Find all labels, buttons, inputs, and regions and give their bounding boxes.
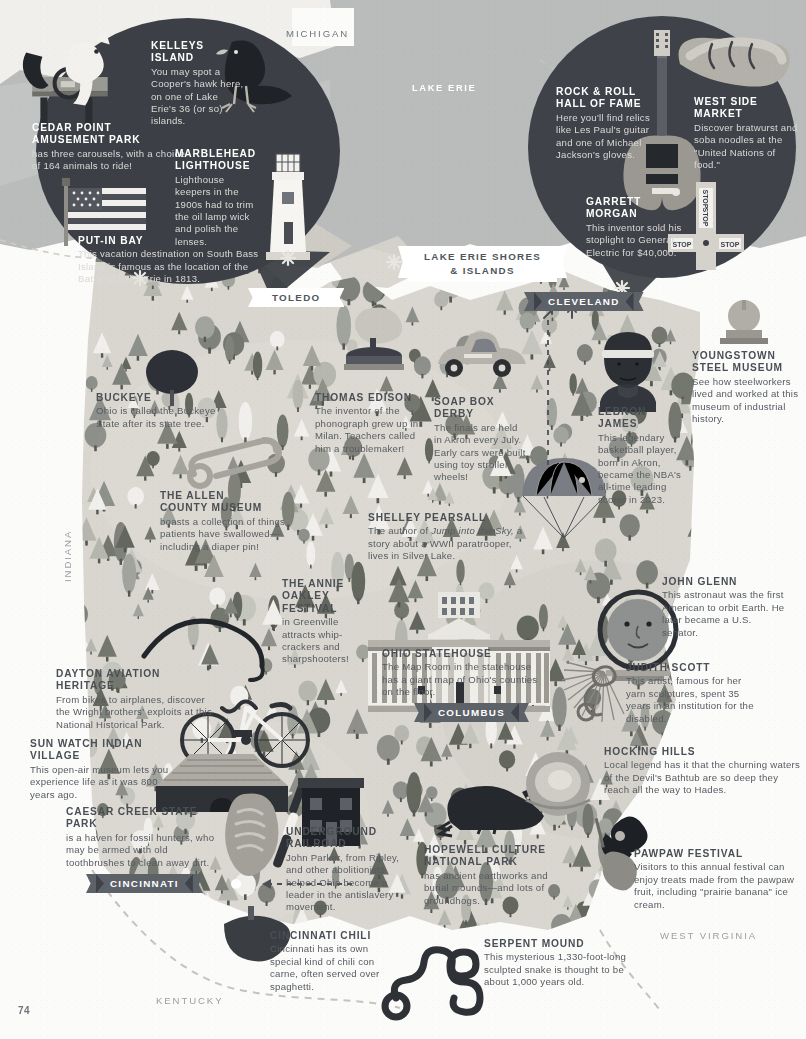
banner-columbus[interactable]: COLUMBUS — [424, 703, 519, 722]
entry-title: PUT-IN BAY — [78, 235, 274, 247]
entry-title: BUCKEYE — [96, 392, 234, 404]
entry-ohio-statehouse: OHIO STATEHOUSE The Map Room in the stat… — [382, 648, 550, 699]
entry-title: UNDERGROUND RAILROAD — [286, 826, 400, 851]
entry-body: Ohio is called the Buckeye State after i… — [96, 405, 234, 430]
entry-john-glenn: JOHN GLENN This astronaut was the first … — [662, 576, 786, 639]
entry-title: LeBRON JAMES — [598, 406, 684, 431]
entry-thomas-edison: THOMAS EDISON The inventor of the phonog… — [315, 392, 433, 455]
entry-body: John Parker, from Ripley, and other abol… — [286, 852, 400, 914]
ohio-illustrated-map: STOP STOP STOP STOP — [0, 0, 806, 1039]
entry-body: From bikes to airplanes, discover the Wr… — [56, 694, 220, 731]
entry-title: THOMAS EDISON — [315, 392, 433, 404]
entry-soap-box-derby: SOAP BOX DERBY The finals are held in Ak… — [434, 396, 526, 484]
entry-lebron-james: LeBRON JAMES This legendary basketball p… — [598, 406, 684, 506]
entry-title: ROCK & ROLL HALL OF FAME — [556, 86, 652, 111]
entry-kelleys-island: KELLEYS ISLAND You may spot a Cooper's h… — [151, 40, 246, 128]
entry-title: SHELLEY PEARSALL — [368, 512, 532, 524]
entry-west-side-market: WEST SIDE MARKET Discover bratwurst and … — [694, 96, 798, 171]
state-label-michigan: MICHIGAN — [286, 28, 349, 39]
entry-body: This legendary basketball player, born i… — [598, 432, 684, 506]
entry-hopewell-culture-national-park: HOPEWELL CULTURE NATIONAL PARK has ancie… — [424, 844, 550, 907]
entry-sun-watch-indian-village: SUN WATCH INDIAN VILLAGE This open-air m… — [30, 738, 180, 801]
banner-cleveland[interactable]: CLEVELAND — [534, 292, 634, 311]
banner-label: CLEVELAND — [548, 296, 620, 307]
entry-body: Cincinnati has its own special kind of c… — [270, 943, 386, 993]
entry-title: WEST SIDE MARKET — [694, 96, 798, 121]
entry-body: This astronaut was the first American to… — [662, 589, 786, 639]
entry-pawpaw-festival: PAWPAW FESTIVAL Visitors to this annual … — [634, 848, 798, 911]
state-label-indiana: INDIANA — [62, 530, 73, 582]
lake-erie-label: LAKE ERIE — [412, 82, 476, 93]
entry-body: is a haven for fossil hunters, who may b… — [66, 832, 226, 869]
entry-body: Here you'll find relics like Les Paul's … — [556, 112, 652, 162]
entry-title: CEDAR POINT AMUSEMENT PARK — [32, 122, 192, 147]
entry-body: See how steelworkers lived and worked at… — [692, 376, 800, 426]
entry-body: This open-air museum lets you experience… — [30, 764, 180, 801]
entry-title: YOUNGSTOWN STEEL MUSEUM — [692, 350, 800, 375]
entry-body: Visitors to this annual festival can enj… — [634, 861, 798, 911]
entry-caesar-creek-state-park: CAESAR CREEK STATE PARK is a haven for f… — [66, 806, 226, 869]
entry-body: has ancient earthworks and burial mounds… — [424, 870, 550, 907]
state-label-west-virginia: WEST VIRGINIA — [660, 930, 757, 941]
entry-title: SERPENT MOUND — [484, 938, 644, 950]
entry-body: The finals are held in Akron every July.… — [434, 422, 526, 484]
entry-annie-oakley-festival: THE ANNIE OAKLEY FESTIVAL in Greenville … — [282, 578, 360, 666]
entry-body: The Map Room in the statehouse has a gia… — [382, 661, 550, 698]
entry-put-in-bay: PUT-IN BAY This vacation destination on … — [78, 235, 274, 286]
page-number: 74 — [18, 1005, 30, 1016]
banner-line-2: & ISLANDS — [450, 264, 515, 278]
entry-title: JUDITH SCOTT — [626, 662, 754, 674]
entry-hocking-hills: HOCKING HILLS Local legend has it that t… — [604, 746, 802, 797]
entry-cedar-point: CEDAR POINT AMUSEMENT PARK has three car… — [32, 122, 192, 173]
entry-body: This mysterious 1,330-foot-long sculpted… — [484, 951, 644, 988]
entry-marblehead-lighthouse: MARBLEHEAD LIGHTHOUSE Lighthouse keepers… — [175, 148, 259, 248]
entry-serpent-mound: SERPENT MOUND This mysterious 1,330-foot… — [484, 938, 644, 989]
entry-body: This artist, famous for her yarn sculptu… — [626, 675, 754, 725]
entry-allen-county-museum: THE ALLEN COUNTY MUSEUM boasts a collect… — [160, 490, 312, 553]
entry-title: PAWPAW FESTIVAL — [634, 848, 798, 860]
entry-cincinnati-chili: CINCINNATI CHILI Cincinnati has its own … — [270, 930, 386, 993]
state-label-kentucky: KENTUCKY — [156, 995, 223, 1006]
banner-cincinnati[interactable]: CINCINNATI — [96, 874, 193, 893]
banner-label: CINCINNATI — [110, 878, 179, 889]
entry-title: SOAP BOX DERBY — [434, 396, 526, 421]
entry-title: JOHN GLENN — [662, 576, 786, 588]
banner-lake-erie-shores[interactable]: LAKE ERIE SHORES & ISLANDS — [408, 246, 557, 282]
entry-body: has three carousels, with a choice of 16… — [32, 148, 192, 173]
entry-title: SUN WATCH INDIAN VILLAGE — [30, 738, 180, 763]
entry-shelley-pearsall: SHELLEY PEARSALL The author of Jump into… — [368, 512, 532, 563]
banner-toledo[interactable]: TOLEDO — [258, 288, 334, 307]
entry-judith-scott: JUDITH SCOTT This artist, famous for her… — [626, 662, 754, 725]
entry-title: OHIO STATEHOUSE — [382, 648, 550, 660]
entry-body: This inventor sold his stoplight to Gene… — [586, 222, 696, 259]
entry-body: The inventor of the phonograph grew up i… — [315, 405, 433, 455]
banner-label: TOLEDO — [272, 292, 320, 303]
entry-title: THE ANNIE OAKLEY FESTIVAL — [282, 578, 360, 615]
entry-title: THE ALLEN COUNTY MUSEUM — [160, 490, 312, 515]
entry-youngstown-steel-museum: YOUNGSTOWN STEEL MUSEUM See how steelwor… — [692, 350, 800, 425]
entry-title: HOPEWELL CULTURE NATIONAL PARK — [424, 844, 550, 869]
entry-body: boasts a collection of things patients h… — [160, 516, 312, 553]
entry-garrett-morgan: GARRETT MORGAN This inventor sold his st… — [586, 196, 696, 259]
entry-title: HOCKING HILLS — [604, 746, 802, 758]
entry-title: GARRETT MORGAN — [586, 196, 696, 221]
entry-body: Discover bratwurst and soba noodles at t… — [694, 122, 798, 172]
banner-line-1: LAKE ERIE SHORES — [424, 250, 541, 264]
entry-body: This vacation destination on South Bass … — [78, 248, 274, 285]
entry-body: in Greenville attracts whip-crackers and… — [282, 616, 360, 666]
entry-title: MARBLEHEAD LIGHTHOUSE — [175, 148, 259, 173]
entry-title: CAESAR CREEK STATE PARK — [66, 806, 226, 831]
entry-title: KELLEYS ISLAND — [151, 40, 246, 65]
entry-underground-railroad: UNDERGROUND RAILROAD John Parker, from R… — [286, 826, 400, 914]
banner-label: COLUMBUS — [438, 707, 505, 718]
entry-body: The author of Jump into the Sky, a story… — [368, 525, 532, 562]
entry-rock-and-roll-hall-of-fame: ROCK & ROLL HALL OF FAME Here you'll fin… — [556, 86, 652, 161]
entry-dayton-aviation-heritage: DAYTON AVIATION HERITAGE From bikes to a… — [56, 668, 220, 731]
entry-title: CINCINNATI CHILI — [270, 930, 386, 942]
entry-body: Local legend has it that the churning wa… — [604, 759, 802, 796]
entry-body: You may spot a Cooper's hawk here, on on… — [151, 66, 246, 128]
entry-title: DAYTON AVIATION HERITAGE — [56, 668, 220, 693]
entry-buckeye: BUCKEYE Ohio is called the Buckeye State… — [96, 392, 234, 430]
